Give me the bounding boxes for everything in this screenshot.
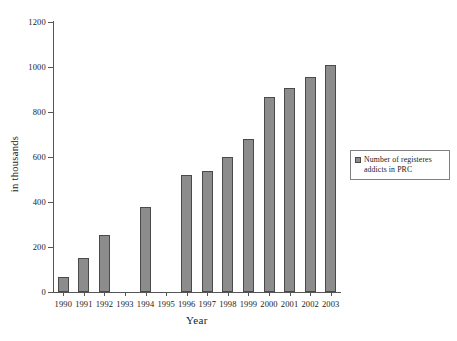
chart-legend[interactable]: Number of registeresaddicts in PRC xyxy=(350,150,450,180)
x-axis-tick-mark xyxy=(207,292,208,296)
x-axis-tick-mark xyxy=(187,292,188,296)
bar xyxy=(202,171,213,293)
y-axis-tick-label: 800 xyxy=(2,108,46,117)
y-axis-tick-label-wrap: 200 xyxy=(0,243,46,252)
y-axis-tick-label-wrap: 1000 xyxy=(0,63,46,72)
y-axis-title: in thousands xyxy=(9,99,21,229)
x-axis-line xyxy=(53,292,341,293)
bar xyxy=(222,157,233,292)
y-axis-tick-label: 400 xyxy=(2,198,46,207)
x-axis-tick-mark xyxy=(228,292,229,296)
x-axis-tick-mark xyxy=(125,292,126,296)
y-axis-tick-label-wrap: 400 xyxy=(0,198,46,207)
plot-area xyxy=(53,22,341,292)
legend-label-line1: Number of registeres xyxy=(364,155,432,164)
x-axis-tick-mark xyxy=(166,292,167,296)
x-axis-tick-mark xyxy=(146,292,147,296)
bar xyxy=(78,258,89,292)
y-axis-tick-label-wrap: 800 xyxy=(0,108,46,117)
y-axis-tick-label: 1000 xyxy=(2,63,46,72)
bar-chart-figure: in thousands 020040060080010001200 19901… xyxy=(0,0,457,341)
legend-swatch-icon xyxy=(355,157,361,163)
bar xyxy=(140,207,151,293)
x-axis-tick-mark xyxy=(310,292,311,296)
y-axis-tick-label: 1200 xyxy=(2,18,46,27)
x-axis-title: Year xyxy=(53,314,341,326)
bar xyxy=(325,65,336,292)
bar xyxy=(284,88,295,292)
x-axis-tick-mark xyxy=(269,292,270,296)
y-axis-tick-label-wrap: 0 xyxy=(0,288,46,297)
y-axis-tick-label-wrap: 1200 xyxy=(0,18,46,27)
x-axis-tick-mark xyxy=(290,292,291,296)
bar xyxy=(58,277,69,292)
y-axis-tick-label: 600 xyxy=(2,153,46,162)
x-axis-tick-mark xyxy=(63,292,64,296)
y-axis-title-container: in thousands xyxy=(8,100,22,230)
y-axis-tick-label: 0 xyxy=(2,288,46,297)
legend-entry[interactable]: Number of registeresaddicts in PRC xyxy=(355,155,446,175)
bar xyxy=(181,175,192,292)
x-axis-tick-mark xyxy=(104,292,105,296)
bar xyxy=(99,235,110,292)
y-axis-tick-label: 200 xyxy=(2,243,46,252)
bar xyxy=(243,139,254,292)
x-axis-tick-label: 2003 xyxy=(318,299,344,309)
x-axis-tick-mark xyxy=(331,292,332,296)
x-axis-tick-mark xyxy=(248,292,249,296)
legend-label-line2: addicts in PRC xyxy=(364,165,412,174)
bar xyxy=(264,97,275,292)
y-axis-tick-label-wrap: 600 xyxy=(0,153,46,162)
legend-entry-label: Number of registeresaddicts in PRC xyxy=(364,155,432,175)
bar xyxy=(305,77,316,292)
x-axis-tick-mark xyxy=(84,292,85,296)
